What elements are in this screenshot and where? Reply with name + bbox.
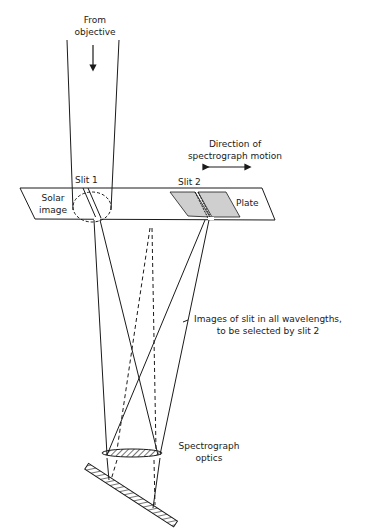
- dashed-rays: [111, 228, 156, 505]
- label-line: spectrograph motion: [185, 150, 285, 162]
- label-line: Spectrograph: [174, 440, 244, 452]
- label-line: image: [36, 204, 70, 216]
- spectrograph-optics-label: Spectrograph optics: [174, 440, 244, 464]
- label-line: From: [70, 14, 120, 26]
- solar-image-label: Solar image: [36, 192, 70, 216]
- label-line: Solar: [36, 192, 70, 204]
- spectrograph-lens: [102, 449, 162, 457]
- slit1-label: Slit 1: [75, 174, 98, 186]
- photographic-plate: [170, 192, 240, 220]
- rays: [94, 220, 209, 508]
- label-line: Images of slit in all wavelengths,: [188, 313, 348, 325]
- label-line: objective: [70, 26, 120, 38]
- solar-image: [73, 188, 111, 222]
- images-of-slit-label: Images of slit in all wavelengths, to be…: [188, 313, 348, 337]
- grating-mirror: [85, 463, 178, 527]
- plate-label: Plate: [236, 197, 259, 209]
- label-line: Direction of: [185, 138, 285, 150]
- label-line: to be selected by slit 2: [188, 325, 348, 337]
- label-line: optics: [174, 452, 244, 464]
- direction-label: Direction of spectrograph motion: [185, 138, 285, 162]
- slit2-label: Slit 2: [178, 176, 201, 188]
- from-objective-label: From objective: [70, 14, 120, 38]
